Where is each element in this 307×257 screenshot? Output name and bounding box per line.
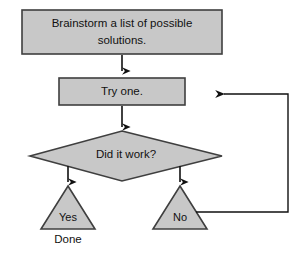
try-one-label: Try one. bbox=[101, 85, 143, 97]
flowchart-canvas: Brainstorm a list of possible solutions.… bbox=[0, 0, 307, 257]
no-label: No bbox=[173, 211, 187, 223]
brainstorm-label-line1: Brainstorm a list of possible bbox=[52, 17, 193, 29]
node-try-one[interactable]: Try one. bbox=[59, 78, 185, 105]
node-brainstorm[interactable]: Brainstorm a list of possible solutions. bbox=[22, 10, 222, 54]
brainstorm-label-line2: solutions. bbox=[98, 34, 147, 46]
flowchart-diagram: Brainstorm a list of possible solutions.… bbox=[0, 0, 307, 257]
node-no-branch[interactable]: No bbox=[153, 186, 207, 229]
node-yes-branch[interactable]: Yes bbox=[41, 186, 95, 229]
decision-label: Did it work? bbox=[96, 148, 156, 160]
done-caption: Done bbox=[54, 233, 82, 245]
node-decision[interactable]: Did it work? bbox=[30, 131, 222, 181]
yes-label: Yes bbox=[59, 211, 77, 223]
